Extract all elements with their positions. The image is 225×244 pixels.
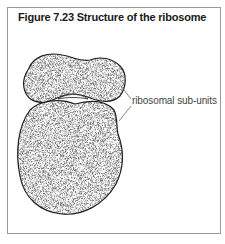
- leader-line-large-subunit: [119, 106, 131, 121]
- subunits-label: ribosomal sub-units: [132, 95, 217, 106]
- large-subunit: [18, 101, 123, 215]
- ribosome-illustration: [0, 0, 225, 244]
